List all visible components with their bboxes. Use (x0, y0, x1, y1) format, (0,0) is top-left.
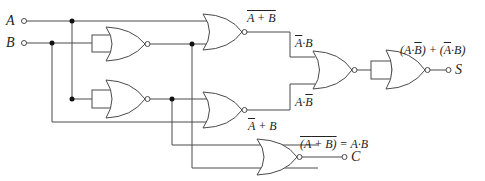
junction-b (50, 41, 55, 46)
output-c-terminal (342, 155, 347, 160)
output-s-terminal (446, 68, 451, 73)
nor-gate-6 (313, 51, 357, 89)
junction-nor2 (170, 97, 175, 102)
nor-gate-1 (92, 27, 150, 61)
nor-gate-5 (257, 139, 302, 175)
wire-a (22, 19, 213, 24)
wire-b (22, 41, 93, 46)
nor-gate-4 (203, 92, 247, 128)
nor-gate-2 (92, 80, 150, 118)
label-nor4-out: A + B (248, 120, 277, 132)
circuit-diagram (0, 0, 485, 181)
nor-gate-3 (203, 14, 247, 50)
junction-a (70, 19, 75, 24)
label-sum-expr: (A·B) + (A·B) (400, 44, 465, 56)
junction-a-low (70, 97, 75, 102)
input-label-b: B (6, 36, 15, 50)
output-label-s: S (455, 63, 462, 77)
junction-nor1 (190, 42, 195, 47)
label-carry-expr: (A + B) = A·B (300, 138, 368, 150)
input-label-a: A (6, 14, 15, 28)
label-a-bbar: A·B (295, 96, 313, 108)
label-abar-b: A·B (295, 37, 313, 49)
label-nor3-out: A + B (247, 12, 276, 24)
output-label-c: C (351, 150, 360, 164)
